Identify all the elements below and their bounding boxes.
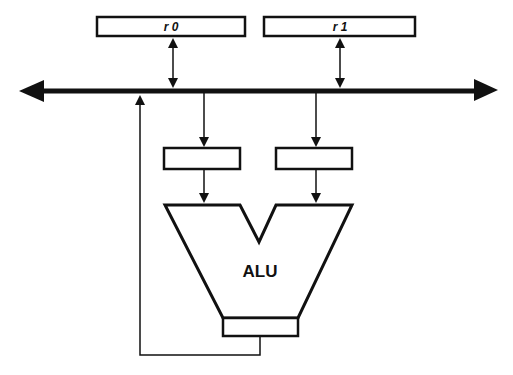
latch-b <box>276 148 352 169</box>
latch-b-to-alu-arrow <box>311 170 321 203</box>
bus-left-arrowhead-icon <box>19 80 44 102</box>
alu-label: ALU <box>243 262 278 281</box>
r1-bus-arrow <box>335 38 345 88</box>
r0-bus-arrow <box>168 38 178 88</box>
latch-a-to-alu-arrow <box>199 170 209 203</box>
register-r0-label: r 0 <box>164 20 179 34</box>
latch-a <box>164 148 240 169</box>
bus-right-arrowhead-icon <box>474 79 498 101</box>
register-r1-label: r 1 <box>333 20 348 34</box>
alu: ALU <box>165 205 352 318</box>
datapath-diagram: r 0 r 1 ALU <box>0 0 513 375</box>
register-r1: r 1 <box>264 17 415 36</box>
bus <box>19 79 498 102</box>
alu-output-latch <box>223 318 298 336</box>
register-r0: r 0 <box>97 17 245 36</box>
bus-to-latch-a-arrow <box>199 93 209 147</box>
bus-to-latch-b-arrow <box>311 93 321 147</box>
